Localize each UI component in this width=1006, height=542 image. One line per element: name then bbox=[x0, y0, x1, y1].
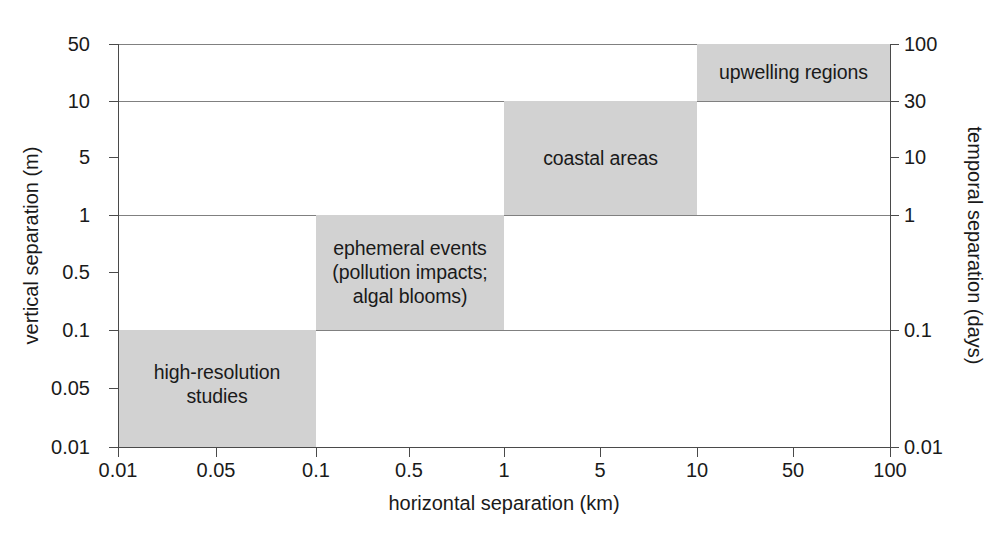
y-tick-left-0.1 bbox=[109, 330, 118, 331]
cell-label-ephemeral-events: ephemeral events (pollution impacts; alg… bbox=[316, 236, 504, 308]
cell-label-upwelling-regions: upwelling regions bbox=[697, 60, 890, 84]
y-ticklabel-right-10: 10 bbox=[904, 147, 926, 167]
y-ticklabel-left-0.5: 0.5 bbox=[62, 262, 90, 282]
y-ticklabel-left-0.01: 0.01 bbox=[51, 437, 90, 457]
y-axis-left-title: vertical separation (m) bbox=[14, 44, 48, 447]
x-tick-50 bbox=[793, 448, 794, 457]
x-ticklabel-5: 5 bbox=[594, 460, 605, 480]
y-ticklabel-left-1: 1 bbox=[79, 205, 90, 225]
scale-diagram-figure: high-resolution studies ephemeral events… bbox=[0, 0, 1006, 542]
y-ticklabel-right-0.01: 0.01 bbox=[904, 437, 943, 457]
y-tick-left-10 bbox=[109, 101, 118, 102]
x-axis-title: horizontal separation (km) bbox=[118, 491, 890, 515]
cell-label-coastal-areas: coastal areas bbox=[504, 146, 697, 170]
x-tick-0.5 bbox=[409, 448, 410, 457]
x-ticklabel-100: 100 bbox=[873, 460, 906, 480]
y-axis-right-title: temporal separation (days) bbox=[958, 44, 992, 447]
y-tick-right-30 bbox=[890, 101, 899, 102]
y-ticklabel-left-10: 10 bbox=[68, 91, 90, 111]
y-tick-right-0.01 bbox=[890, 447, 899, 448]
y-axis-right-spine bbox=[890, 44, 891, 448]
x-tick-1 bbox=[504, 448, 505, 457]
y-axis-left-spine bbox=[118, 44, 119, 448]
x-ticklabel-50: 50 bbox=[782, 460, 804, 480]
y-tick-left-0.05 bbox=[109, 388, 118, 389]
y-ticklabel-right-100: 100 bbox=[904, 34, 937, 54]
y-ticklabel-right-0.1: 0.1 bbox=[904, 320, 932, 340]
x-ticklabel-0.05: 0.05 bbox=[197, 460, 236, 480]
y-tick-left-1 bbox=[109, 215, 118, 216]
y-tick-left-0.01 bbox=[109, 447, 118, 448]
y-ticklabel-left-50: 50 bbox=[68, 34, 90, 54]
cell-high-resolution-studies: high-resolution studies bbox=[118, 330, 316, 447]
x-ticklabel-10: 10 bbox=[686, 460, 708, 480]
x-ticklabel-0.1: 0.1 bbox=[302, 460, 330, 480]
cell-ephemeral-events: ephemeral events (pollution impacts; alg… bbox=[316, 215, 504, 330]
x-tick-100 bbox=[890, 448, 891, 457]
y-ticklabel-left-5: 5 bbox=[79, 147, 90, 167]
y-tick-right-100 bbox=[890, 44, 899, 45]
cell-upwelling-regions: upwelling regions bbox=[697, 44, 890, 101]
x-tick-0.1 bbox=[316, 448, 317, 457]
y-tick-right-10 bbox=[890, 157, 899, 158]
x-ticklabel-0.01: 0.01 bbox=[99, 460, 138, 480]
y-ticklabel-left-0.1: 0.1 bbox=[62, 320, 90, 340]
y-tick-right-0.1 bbox=[890, 330, 899, 331]
y-ticklabel-right-1: 1 bbox=[904, 205, 915, 225]
x-tick-5 bbox=[600, 448, 601, 457]
x-tick-10 bbox=[697, 448, 698, 457]
y-ticklabel-left-0.05: 0.05 bbox=[51, 378, 90, 398]
y-tick-left-5 bbox=[109, 157, 118, 158]
y-ticklabel-right-30: 30 bbox=[904, 91, 926, 111]
cell-coastal-areas: coastal areas bbox=[504, 101, 697, 215]
x-tick-0.01 bbox=[118, 448, 119, 457]
x-ticklabel-0.5: 0.5 bbox=[395, 460, 423, 480]
cell-label-high-resolution-studies: high-resolution studies bbox=[118, 360, 316, 408]
x-tick-0.05 bbox=[216, 448, 217, 457]
y-tick-left-50 bbox=[109, 44, 118, 45]
gridline-y-1 bbox=[118, 215, 890, 216]
y-tick-right-1 bbox=[890, 215, 899, 216]
plot-area: high-resolution studies ephemeral events… bbox=[118, 44, 890, 447]
y-tick-left-0.5 bbox=[109, 272, 118, 273]
x-ticklabel-1: 1 bbox=[498, 460, 509, 480]
